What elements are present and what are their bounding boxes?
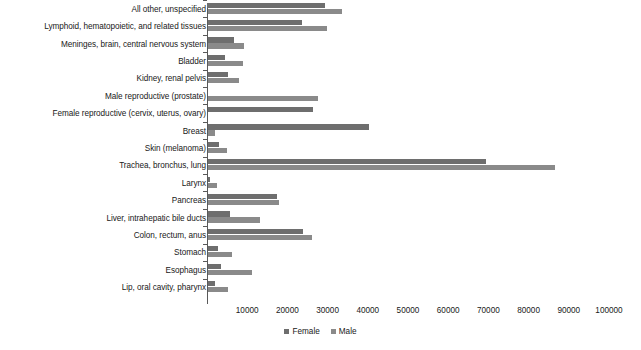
x-tick-label: 30000 <box>316 306 339 316</box>
bar-group <box>207 17 641 34</box>
bar-male <box>207 217 260 222</box>
bar-female <box>207 264 221 269</box>
bar-female <box>207 281 215 286</box>
bar-male <box>207 96 318 101</box>
bar-male <box>207 270 252 275</box>
bar-male <box>207 130 215 135</box>
category-row: Breast <box>0 122 641 139</box>
category-label: Trachea, bronchus, lung <box>119 161 206 170</box>
category-row: Colon, rectum, anus <box>0 226 641 243</box>
x-tick-label: 40000 <box>356 306 379 316</box>
category-label: Male reproductive (prostate) <box>105 91 206 100</box>
category-row: Stomach <box>0 244 641 261</box>
x-tick-label: 70000 <box>477 306 500 316</box>
bar-female <box>207 211 230 216</box>
y-axis-line <box>207 8 208 304</box>
bar-group <box>207 87 641 104</box>
x-tick-label: 80000 <box>517 306 540 316</box>
bar-male <box>207 183 217 188</box>
bar-group <box>207 244 641 261</box>
category-rows: All other, unspecifiedLymphoid, hematopo… <box>0 0 641 296</box>
x-tick-label: 90000 <box>557 306 580 316</box>
legend-label: Female <box>292 327 319 336</box>
bar-female <box>207 159 486 164</box>
bar-group <box>207 261 641 278</box>
bar-group <box>207 35 641 52</box>
bar-group <box>207 70 641 87</box>
category-label: Liver, intrahepatic bile ducts <box>106 213 206 222</box>
bar-male <box>207 200 279 205</box>
bar-group <box>207 122 641 139</box>
category-label: Meninges, brain, central nervous system <box>61 39 206 48</box>
bar-group <box>207 174 641 191</box>
x-tick-label: 60000 <box>437 306 460 316</box>
category-row: Larynx <box>0 174 641 191</box>
bar-group <box>207 104 641 121</box>
bar-group <box>207 191 641 208</box>
bar-female <box>207 246 218 251</box>
bar-group <box>207 157 641 174</box>
x-axis-tick-labels: 1000020000300004000050000600007000080000… <box>0 306 641 320</box>
category-row: Meninges, brain, central nervous system <box>0 35 641 52</box>
bar-female <box>207 20 302 25</box>
category-row: Liver, intrahepatic bile ducts <box>0 209 641 226</box>
bar-group <box>207 209 641 226</box>
bar-female <box>207 3 325 8</box>
category-label: Larynx <box>182 178 206 187</box>
category-row: Pancreas <box>0 191 641 208</box>
bar-male <box>207 287 228 292</box>
category-row: Lip, oral cavity, pharynx <box>0 279 641 296</box>
bar-group <box>207 279 641 296</box>
bar-group <box>207 0 641 17</box>
bar-chart: All other, unspecifiedLymphoid, hematopo… <box>0 0 641 350</box>
bar-female <box>207 229 303 234</box>
category-label: Esophagus <box>165 265 206 274</box>
category-row: Female reproductive (cervix, uterus, ova… <box>0 104 641 121</box>
category-row: All other, unspecified <box>0 0 641 17</box>
legend-item-female[interactable]: Female <box>284 327 319 336</box>
bar-male <box>207 26 327 31</box>
bar-female <box>207 142 219 147</box>
category-label: Bladder <box>178 56 206 65</box>
legend-label: Male <box>339 327 357 336</box>
category-row: Skin (melanoma) <box>0 139 641 156</box>
category-row: Trachea, bronchus, lung <box>0 157 641 174</box>
x-tick-label: 50000 <box>397 306 420 316</box>
bar-female <box>207 107 313 112</box>
bar-male <box>207 43 244 48</box>
bar-group <box>207 226 641 243</box>
category-row: Lymphoid, hematopoietic, and related tis… <box>0 17 641 34</box>
category-label: Pancreas <box>172 196 206 205</box>
category-label: Lymphoid, hematopoietic, and related tis… <box>44 22 206 31</box>
category-row: Esophagus <box>0 261 641 278</box>
bar-male <box>207 148 227 153</box>
category-label: Stomach <box>174 248 206 257</box>
bar-male <box>207 78 239 83</box>
legend-swatch-male <box>331 329 336 334</box>
category-row: Kidney, renal pelvis <box>0 70 641 87</box>
bar-male <box>207 61 243 66</box>
category-label: All other, unspecified <box>132 4 206 13</box>
category-label: Skin (melanoma) <box>145 143 206 152</box>
bar-group <box>207 52 641 69</box>
bar-female <box>207 72 228 77</box>
bar-male <box>207 235 312 240</box>
bar-female <box>207 55 225 60</box>
category-label: Breast <box>183 126 206 135</box>
x-tick-label: 10000 <box>236 306 259 316</box>
bar-female <box>207 124 369 129</box>
category-row: Male reproductive (prostate) <box>0 87 641 104</box>
x-tick-label: 100000 <box>595 306 622 316</box>
legend-swatch-female <box>284 329 289 334</box>
bar-male <box>207 165 555 170</box>
bar-group <box>207 139 641 156</box>
chart-legend: FemaleMale <box>0 327 641 336</box>
category-label: Colon, rectum, anus <box>134 230 206 239</box>
legend-item-male[interactable]: Male <box>331 327 357 336</box>
x-tick-label: 20000 <box>276 306 299 316</box>
category-label: Female reproductive (cervix, uterus, ova… <box>53 109 206 118</box>
category-row: Bladder <box>0 52 641 69</box>
bar-female <box>207 37 234 42</box>
category-label: Kidney, renal pelvis <box>137 74 206 83</box>
category-label: Lip, oral cavity, pharynx <box>122 283 206 292</box>
